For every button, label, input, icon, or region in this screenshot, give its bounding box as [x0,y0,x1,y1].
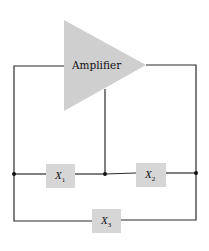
component-x3-subscript: 3 [108,221,112,229]
junction-node-left [12,172,16,176]
amplifier-label: Amplifier [71,59,122,71]
wire-output-right [146,65,196,173]
component-x1-subscript: 1 [62,176,66,184]
wire-input-left [14,66,64,174]
circuit-diagram: Amplifier X1 X2 X3 [0,0,209,251]
wire-middle-to-x2 [105,173,136,174]
component-x3: X3 [92,209,121,233]
junction-node-middle [103,172,107,176]
component-x1: X1 [46,164,75,188]
component-x2-subscript: 2 [152,175,156,183]
wires [14,65,196,221]
component-x2: X2 [136,163,166,187]
junction-node-right [194,171,198,175]
